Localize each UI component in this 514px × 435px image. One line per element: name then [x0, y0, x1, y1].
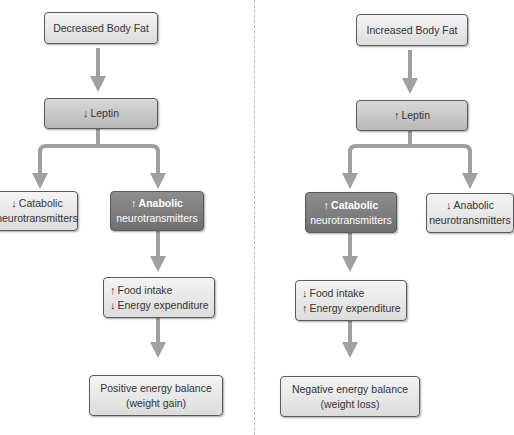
up-arrow-icon: ↑ — [110, 284, 116, 296]
decreased-body-fat-box: Decreased Body Fat — [44, 12, 158, 44]
result-line1: Positive energy balance — [100, 381, 212, 395]
catabolic-label: Catabolic — [331, 199, 378, 211]
neurotransmitters-label: neurotransmitters — [116, 211, 198, 225]
start-label: Increased Body Fat — [366, 23, 457, 37]
right-leptin-box: ↑Leptin — [356, 100, 468, 131]
down-arrow-icon: ↓ — [83, 107, 89, 119]
neurotransmitters-label: neurotransmitters — [429, 213, 511, 227]
up-arrow-icon: ↑ — [131, 197, 137, 209]
energy-expenditure-label: Energy expenditure — [310, 302, 401, 314]
right-catabolic-box: ↑Catabolic neurotransmitters — [305, 192, 397, 233]
start-label: Decreased Body Fat — [53, 21, 149, 35]
right-anabolic-box: ↓Anabolic neurotransmitters — [426, 193, 514, 233]
leptin-label: Leptin — [90, 107, 119, 119]
energy-expenditure-label: Energy expenditure — [118, 299, 209, 311]
food-intake-label: Food intake — [310, 287, 365, 299]
anabolic-label: Anabolic — [139, 197, 183, 209]
result-line1: Negative energy balance — [292, 382, 408, 396]
catabolic-label: Catabolic — [19, 197, 63, 209]
left-catabolic-box: ↓Catabolic neurotransmitters — [0, 191, 78, 231]
left-anabolic-box: ↑Anabolic neurotransmitters — [110, 191, 204, 231]
neurotransmitters-label: neurotransmitters — [0, 211, 78, 225]
up-arrow-icon: ↑ — [302, 302, 308, 314]
down-arrow-icon: ↓ — [446, 199, 452, 211]
positive-balance-box: Positive energy balance (weight gain) — [89, 375, 223, 416]
result-line2: (weight gain) — [126, 396, 186, 410]
neurotransmitters-label: neurotransmitters — [310, 213, 392, 227]
increased-body-fat-box: Increased Body Fat — [356, 14, 468, 46]
negative-balance-box: Negative energy balance (weight loss) — [280, 376, 420, 417]
down-arrow-icon: ↓ — [110, 299, 116, 311]
food-intake-label: Food intake — [118, 284, 173, 296]
anabolic-label: Anabolic — [454, 199, 494, 211]
down-arrow-icon: ↓ — [302, 287, 308, 299]
result-line2: (weight loss) — [321, 397, 380, 411]
leptin-label: Leptin — [401, 109, 430, 121]
left-leptin-box: ↓Leptin — [44, 98, 158, 129]
right-intake-box: ↓Food intake ↑Energy expenditure — [295, 280, 407, 321]
down-arrow-icon: ↓ — [11, 197, 17, 209]
left-intake-box: ↑Food intake ↓Energy expenditure — [103, 277, 215, 318]
up-arrow-icon: ↑ — [394, 109, 400, 121]
up-arrow-icon: ↑ — [324, 199, 330, 211]
